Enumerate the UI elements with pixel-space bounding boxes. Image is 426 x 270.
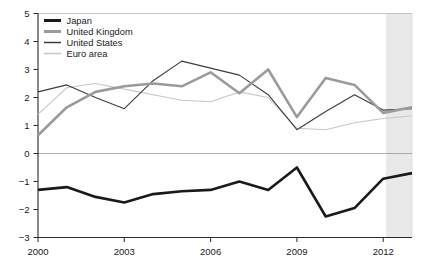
legend-item-united-states: United States (44, 38, 123, 48)
x-tick-label: 2009 (286, 246, 307, 257)
series-line-japan (38, 168, 412, 217)
y-tick-label: 0 (24, 148, 29, 159)
forecast-band (386, 14, 412, 238)
inflation-line-chart: 543210−1−2−320002003200620092012JapanUni… (0, 0, 426, 270)
y-tick-label: 2 (24, 92, 29, 103)
y-tick-label: −2 (19, 204, 30, 215)
y-tick-label: 1 (24, 120, 29, 131)
legend-label: Euro area (67, 49, 109, 59)
legend-item-euro-area: Euro area (44, 49, 108, 59)
y-tick-label: 3 (24, 64, 29, 75)
y-tick-label: 5 (24, 8, 29, 19)
legend: JapanUnited KingdomUnited StatesEuro are… (44, 16, 133, 59)
series-line-euro-area (38, 84, 412, 130)
series-line-united-kingdom (38, 70, 412, 136)
x-tick-label: 2006 (200, 246, 221, 257)
x-tick-label: 2000 (27, 246, 48, 257)
y-tick-label: 4 (24, 36, 29, 47)
legend-label: United Kingdom (67, 27, 133, 37)
line-chart-panel: 543210−1−2−320002003200620092012JapanUni… (0, 0, 426, 270)
y-tick-label: −1 (19, 176, 30, 187)
legend-item-united-kingdom: United Kingdom (44, 27, 133, 37)
legend-label: United States (67, 38, 123, 48)
x-tick-label: 2012 (373, 246, 394, 257)
x-tick-label: 2003 (114, 246, 135, 257)
legend-label: Japan (67, 16, 92, 26)
y-tick-label: −3 (19, 232, 30, 243)
series-line-united-states (38, 61, 412, 130)
legend-item-japan: Japan (44, 16, 92, 26)
